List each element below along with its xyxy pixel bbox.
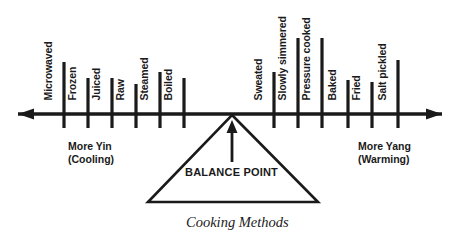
- tick-label: Frozen: [67, 67, 78, 101]
- left-arrow-head: [18, 109, 34, 120]
- right-axis-note: More Yang (Warming): [358, 140, 411, 166]
- right-axis-note-line2: (Warming): [358, 153, 410, 165]
- left-axis-note-line1: More Yin: [68, 140, 112, 152]
- left-axis-note-line2: (Cooling): [68, 153, 114, 165]
- balance-point-arrow: [227, 120, 238, 162]
- tick-label: Raw: [115, 79, 126, 100]
- diagram-canvas: [0, 0, 468, 237]
- tick-label: Microwaved: [43, 41, 54, 100]
- right-arrow-head: [426, 109, 442, 120]
- tick-label: Sweated: [253, 59, 264, 101]
- balance-point-label: BALANCE POINT: [185, 166, 278, 178]
- diagram-caption: Cooking Methods: [186, 214, 289, 231]
- left-axis-note: More Yin (Cooling): [68, 140, 114, 166]
- tick-label: Slowly simmered: [277, 16, 288, 100]
- tick-label: Salt pickled: [377, 43, 388, 100]
- tick-label: Boiled: [163, 69, 174, 101]
- tick-label: Juiced: [91, 68, 102, 101]
- right-axis-note-line1: More Yang: [358, 140, 411, 152]
- tick-label: Baked: [327, 69, 338, 100]
- tick-label: Pressure cooked: [301, 17, 312, 100]
- cooking-methods-diagram: MicrowavedFrozenJuicedRawSteamedBoiledSw…: [0, 0, 468, 237]
- tick-label: Steamed: [139, 57, 150, 100]
- tick-label: Fried: [351, 75, 362, 100]
